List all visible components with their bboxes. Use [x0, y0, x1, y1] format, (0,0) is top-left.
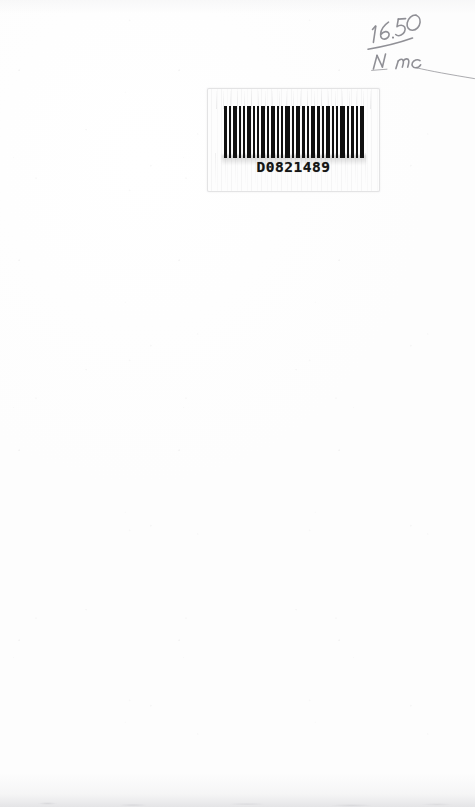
- barcode-bar: [277, 106, 279, 158]
- barcode-bar: [257, 106, 259, 158]
- barcode-bar: [281, 106, 283, 158]
- barcode-bar: [271, 106, 275, 158]
- barcode-bar: [292, 106, 294, 158]
- barcode-bar: [347, 106, 349, 158]
- barcode-bar: [317, 106, 320, 158]
- barcode-bar: [243, 106, 245, 158]
- barcode-number-text: D0821489: [208, 159, 379, 175]
- barcode-bar: [307, 106, 309, 158]
- barcode-bar: [253, 106, 255, 158]
- barcode-bar: [233, 106, 237, 158]
- bottom-edge-flecks: [0, 791, 475, 807]
- barcode-bar: [296, 106, 300, 158]
- top-edge-smudge: [0, 0, 475, 14]
- barcode-bar: [224, 106, 227, 158]
- barcode-bar: [351, 106, 354, 158]
- barcode-bar: [261, 106, 265, 158]
- barcode-bar: [311, 106, 315, 158]
- barcode-bar: [356, 106, 358, 158]
- barcode-bar: [336, 106, 338, 158]
- barcode-label[interactable]: D0821489: [207, 88, 380, 192]
- barcode-bar: [247, 106, 251, 158]
- barcode-bar: [332, 106, 334, 158]
- barcode-bar: [229, 106, 231, 158]
- barcode-bar: [322, 106, 324, 158]
- barcode-bar: [239, 106, 241, 158]
- barcode-bar: [360, 106, 364, 158]
- barcode-bar: [302, 106, 305, 158]
- scanned-page: D0821489 16.50 N mc: [0, 0, 475, 807]
- barcode-bar: [285, 106, 290, 158]
- barcode-bar: [340, 106, 345, 158]
- barcode-bar: [326, 106, 330, 158]
- barcode-bars: [224, 106, 364, 158]
- barcode-bar: [267, 106, 269, 158]
